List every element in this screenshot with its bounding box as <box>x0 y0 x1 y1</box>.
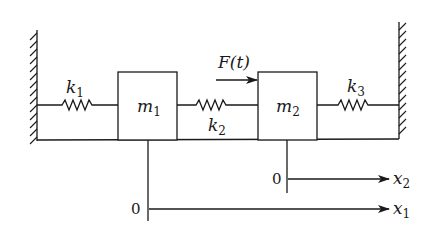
mass-m1: m1 <box>118 72 177 140</box>
axis-x2: 0 x2 <box>272 140 410 193</box>
k3-label: k3 <box>347 76 365 99</box>
floor-line <box>37 139 399 140</box>
k1-label: k1 <box>66 77 84 100</box>
x1-origin-label: 0 <box>131 200 141 218</box>
spring-k3: k3 <box>317 76 399 110</box>
x2-origin-label: 0 <box>272 170 282 188</box>
k2-label: k2 <box>208 115 226 138</box>
x1-label: x1 <box>393 198 410 221</box>
spring-k2: k2 <box>177 100 258 138</box>
left-wall <box>30 30 37 144</box>
force-label: F(t) <box>217 52 250 72</box>
spring-k1: k1 <box>37 77 118 110</box>
axis-x1: 0 x1 <box>131 140 410 221</box>
force-arrow: F(t) <box>216 52 257 80</box>
x2-label: x2 <box>393 168 410 191</box>
right-wall <box>399 22 406 139</box>
mass-m2: m2 <box>258 72 317 140</box>
mass-spring-diagram: k1 m1 k2 F(t) m2 k3 0 x2 0 x1 <box>0 0 432 230</box>
